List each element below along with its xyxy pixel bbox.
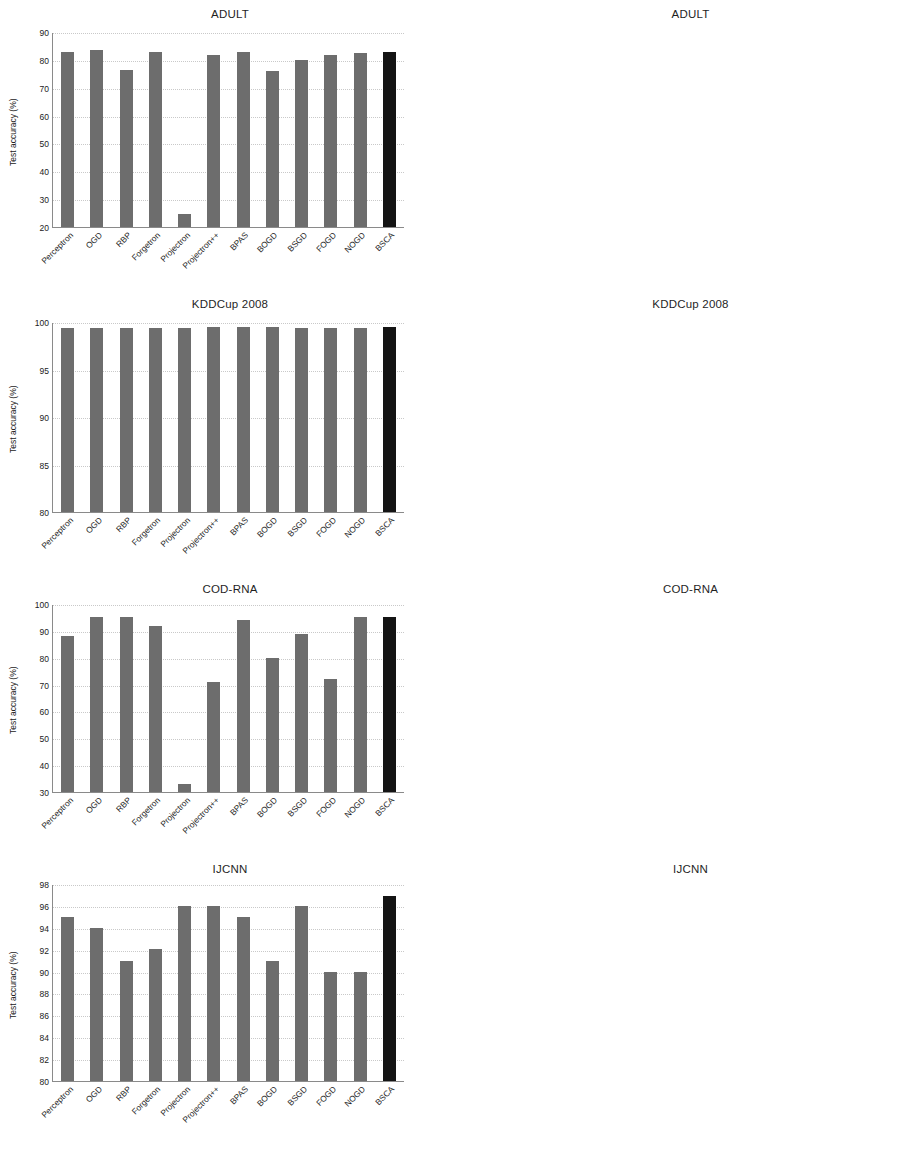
x-label-slot: NOGD [346,227,375,287]
y-tick-label: 60 [40,112,49,122]
bar-perceptron [61,917,74,1081]
bar-series [53,605,404,792]
y-tick-label: 100 [35,318,49,328]
bar-series [53,885,404,1081]
x-label-slot: BSGD [287,792,316,852]
bar-perceptron [61,52,74,227]
x-tick-label: BSGD [285,515,309,539]
x-tick-label: OGD [84,515,104,535]
bar-slot [375,323,404,512]
chart-panel-kddcup-time: KDDCup 2008Training time (sec)0501001502… [460,290,921,575]
bar-fogd [324,972,337,1081]
plot-area: 30405060708090100PerceptronOGDRBPForgetr… [52,605,404,793]
x-label-slot: FOGD [316,512,345,572]
bar-slot [141,33,170,227]
x-label-slot: BOGD [258,227,287,287]
bar-slot [375,885,404,1081]
x-tick-label: BPAS [228,795,250,817]
x-tick-label: FOGD [314,795,338,819]
bar-slot [199,885,228,1081]
y-axis-label: Test accuracy (%) [8,951,18,1019]
y-axis-label: Test accuracy (%) [8,666,18,734]
y-tick-label: 80 [40,1077,49,1087]
x-label-slot: BSCA [375,512,404,572]
x-tick-label: Perceptron [39,1084,75,1120]
chart-panel-ijcnn-accuracy: IJCNNTest accuracy (%)808284868890929496… [0,855,460,1146]
x-tick-label: FOGD [314,1084,338,1108]
y-tick-label: 30 [40,788,49,798]
bar-slot [53,323,82,512]
bar-slot [141,605,170,792]
bar-bsca [383,617,396,792]
bar-bogd [266,71,279,227]
x-tick-label: RBP [114,515,133,534]
bar-slot [112,33,141,227]
y-tick-label: 90 [40,968,49,978]
x-tick-label: BOGD [255,515,279,539]
y-tick-label: 20 [40,223,49,233]
y-axis-label: Test accuracy (%) [8,98,18,166]
chart-grid: ADULTTest accuracy (%)2030405060708090Pe… [0,0,921,1166]
bar-slot [199,33,228,227]
figure-sheet: ADULTTest accuracy (%)2030405060708090Pe… [0,0,921,1166]
bar-nogd [354,972,367,1081]
bar-bpas [237,917,250,1081]
bar-ogd [90,928,103,1081]
y-tick-label: 90 [40,413,49,423]
bar-bpas [237,52,250,227]
x-tick-label: OGD [84,795,104,815]
y-tick-label: 70 [40,681,49,691]
x-tick-label: FOGD [314,230,338,254]
x-tick-label: NOGD [343,1084,368,1109]
bar-slot [258,323,287,512]
y-tick-label: 92 [40,946,49,956]
bar-nogd [354,328,367,512]
chart-title: KDDCup 2008 [460,298,921,310]
y-tick-label: 30 [40,195,49,205]
bar-slot [141,885,170,1081]
y-tick-label: 84 [40,1033,49,1043]
bar-nogd [354,53,367,227]
x-tick-label: BSGD [285,230,309,254]
bar-forgetron [149,626,162,793]
x-label-slot: Projectron++ [199,512,228,572]
bar-projectronplusplus [207,906,220,1081]
y-tick-label: 50 [40,734,49,744]
y-tick-label: 50 [40,139,49,149]
bar-slot [170,323,199,512]
x-tick-label: BOGD [255,795,279,819]
x-tick-label: OGD [84,230,104,250]
plot-area: 80828486889092949698PerceptronOGDRBPForg… [52,885,404,1082]
bar-slot [53,885,82,1081]
bar-bogd [266,658,279,792]
x-tick-label: NOGD [343,795,368,820]
x-tick-label: BSCA [373,515,396,538]
x-label-slot: BSCA [375,227,404,287]
bar-bsgd [295,906,308,1081]
bar-slot [170,605,199,792]
bar-fogd [324,328,337,512]
bar-fogd [324,679,337,792]
bar-ogd [90,328,103,512]
x-label-slot: OGD [82,792,111,852]
bar-series [53,323,404,512]
y-tick-label: 80 [40,56,49,66]
bar-slot [346,323,375,512]
x-label-slot: BOGD [258,1081,287,1141]
bar-bsca [383,896,396,1081]
bar-fogd [324,55,337,227]
bar-slot [82,323,111,512]
bar-projectronplusplus [207,682,220,792]
x-label-slot: FOGD [316,1081,345,1141]
bar-slot [229,33,258,227]
x-tick-label: BOGD [255,1084,279,1108]
x-label-slot: OGD [82,512,111,572]
bar-perceptron [61,328,74,512]
x-label-slot: Projectron++ [199,1081,228,1141]
bar-projectronplusplus [207,327,220,512]
x-tick-label: OGD [84,1084,104,1104]
chart-title: KDDCup 2008 [0,298,460,310]
x-tick-label: Perceptron [39,230,75,266]
bar-rbp [120,328,133,512]
bar-slot [287,323,316,512]
